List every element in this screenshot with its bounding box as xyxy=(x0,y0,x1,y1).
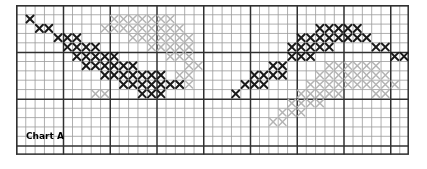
chart-title-label: Chart A xyxy=(26,132,64,141)
cross-stitch-grid[interactable] xyxy=(16,5,409,155)
stitch-symbols xyxy=(16,5,409,155)
chart-root: Chart A xyxy=(0,0,427,169)
